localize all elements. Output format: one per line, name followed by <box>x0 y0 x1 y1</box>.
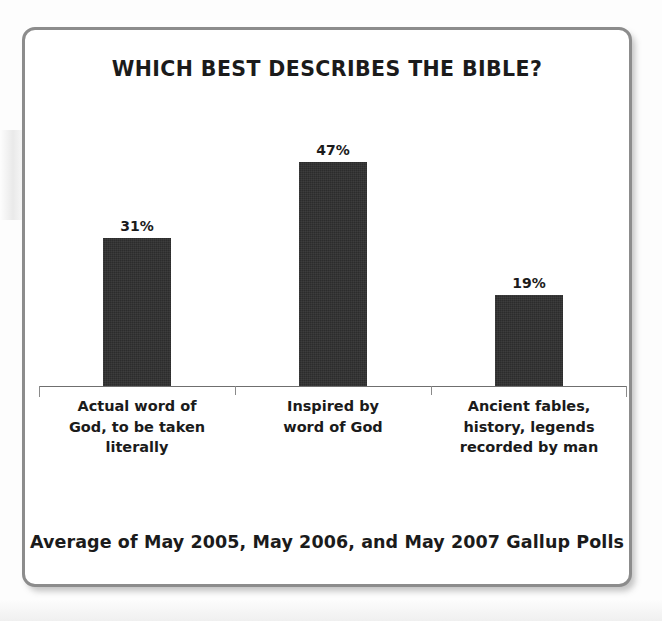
x-axis <box>39 386 627 387</box>
category-label-2-line-1: history, legends <box>431 417 627 438</box>
plot-area: 31% 47% 19% <box>39 100 627 386</box>
axis-tick-1 <box>235 386 236 395</box>
bar-0 <box>103 238 171 386</box>
category-label-0: Actual word of God, to be taken literall… <box>39 396 235 458</box>
bar-column-2: 19% <box>495 100 563 386</box>
chart-card: WHICH BEST DESCRIBES THE BIBLE? 31% 47% … <box>22 27 632 587</box>
chart-page: WHICH BEST DESCRIBES THE BIBLE? 31% 47% … <box>0 0 662 621</box>
category-label-0-line-0: Actual word of <box>39 396 235 417</box>
bar-2 <box>495 295 563 386</box>
category-label-2-line-2: recorded by man <box>431 437 627 458</box>
bar-value-label-2: 19% <box>512 276 546 290</box>
bar-column-1: 47% <box>299 100 367 386</box>
bar-group-1: 47% <box>235 100 431 386</box>
axis-tick-2 <box>431 386 432 395</box>
chart-source-caption: Average of May 2005, May 2006, and May 2… <box>25 532 629 552</box>
category-labels: Actual word of God, to be taken literall… <box>39 396 627 476</box>
bar-value-label-0: 31% <box>120 219 154 233</box>
category-label-1-line-0: Inspired by <box>235 396 431 417</box>
category-label-0-line-1: God, to be taken <box>39 417 235 438</box>
bar-1 <box>299 162 367 386</box>
scan-artifact-bottom <box>0 599 662 621</box>
chart-title: WHICH BEST DESCRIBES THE BIBLE? <box>25 57 629 81</box>
category-label-1: Inspired by word of God <box>235 396 431 437</box>
bar-column-0: 31% <box>103 100 171 386</box>
bar-value-label-1: 47% <box>316 143 350 157</box>
category-label-2-line-0: Ancient fables, <box>431 396 627 417</box>
category-label-1-line-1: word of God <box>235 417 431 438</box>
bar-group-0: 31% <box>39 100 235 386</box>
category-label-0-line-2: literally <box>39 437 235 458</box>
bar-group-2: 19% <box>431 100 627 386</box>
category-label-2: Ancient fables, history, legends recorde… <box>431 396 627 458</box>
